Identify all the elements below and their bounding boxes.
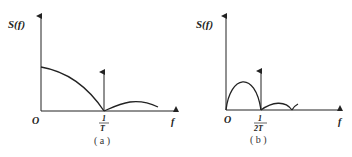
y-axis-label: S(f) — [8, 18, 25, 31]
tick-numerator: 1 — [102, 114, 106, 123]
y-axis-label: S(f) — [196, 18, 213, 31]
continuous-spectrum-lobe-1 — [226, 82, 261, 110]
origin-label: O — [32, 115, 39, 126]
continuous-spectrum-lobe-2 — [261, 103, 292, 110]
continuous-spectrum-lobe-3-start — [292, 104, 298, 110]
continuous-spectrum-lobe-1 — [41, 67, 104, 111]
caption-a: ( a ) — [94, 135, 110, 147]
figure-canvas: S(f) O 1 T ( a ) S(f) O 1 2T ( b ) f f — [0, 0, 352, 157]
tick-denominator: 2T — [253, 124, 264, 133]
x-axis-label-a: f — [171, 116, 176, 127]
continuous-spectrum-lobe-2 — [104, 102, 158, 111]
figure-a: S(f) O 1 T ( a ) — [8, 16, 176, 147]
figure-b: S(f) O 1 2T ( b ) f — [196, 16, 343, 146]
power-spectrum-figures: S(f) O 1 T ( a ) S(f) O 1 2T ( b ) f f — [0, 0, 352, 157]
x-axis-label: f — [338, 116, 343, 127]
origin-label: O — [224, 114, 231, 125]
caption-b: ( b ) — [250, 134, 267, 146]
tick-denominator: T — [100, 124, 106, 133]
tick-numerator: 1 — [258, 114, 262, 123]
